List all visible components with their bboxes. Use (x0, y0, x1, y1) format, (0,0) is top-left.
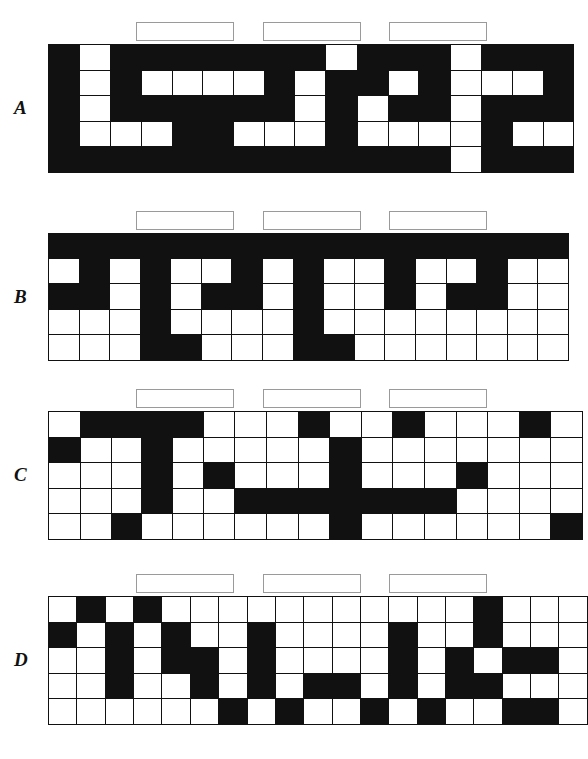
grid-cell-open[interactable] (538, 258, 569, 284)
grid-cell-open[interactable] (488, 463, 520, 489)
grid-cell-open[interactable] (162, 673, 190, 699)
grid-cell-open[interactable] (417, 597, 445, 623)
answer-box-a-3[interactable] (389, 22, 487, 41)
grid-cell-open[interactable] (190, 622, 218, 648)
grid-cell-open[interactable] (326, 45, 358, 71)
grid-cell-open[interactable] (162, 699, 190, 725)
grid-cell-open[interactable] (415, 335, 446, 361)
grid-cell-open[interactable] (190, 699, 218, 725)
grid-cell-open[interactable] (298, 514, 330, 540)
grid-cell-open[interactable] (203, 437, 235, 463)
grid-cell-open[interactable] (304, 699, 332, 725)
grid-cell-open[interactable] (456, 514, 488, 540)
grid-cell-open[interactable] (247, 699, 275, 725)
grid-cell-open[interactable] (203, 488, 235, 514)
grid-cell-open[interactable] (417, 622, 445, 648)
grid-cell-open[interactable] (519, 514, 551, 540)
grid-cell-open[interactable] (134, 673, 162, 699)
grid-cell-open[interactable] (360, 673, 388, 699)
grid-cell-open[interactable] (477, 335, 508, 361)
grid-cell-open[interactable] (162, 597, 190, 623)
grid-cell-open[interactable] (357, 121, 388, 147)
grid-cell-open[interactable] (531, 673, 559, 699)
grid-cell-open[interactable] (354, 335, 385, 361)
grid-cell-open[interactable] (172, 437, 203, 463)
grid-cell-open[interactable] (551, 463, 583, 489)
grid-cell-open[interactable] (201, 309, 232, 335)
grid-cell-open[interactable] (393, 437, 425, 463)
grid-cell-open[interactable] (424, 463, 456, 489)
grid-cell-open[interactable] (49, 514, 81, 540)
puzzle-grid-c[interactable] (48, 411, 583, 540)
grid-cell-open[interactable] (538, 284, 569, 310)
puzzle-grid-a[interactable] (48, 44, 574, 173)
grid-cell-open[interactable] (456, 488, 488, 514)
answer-box-c-2[interactable] (263, 389, 361, 408)
grid-cell-open[interactable] (263, 309, 294, 335)
grid-cell-open[interactable] (201, 258, 232, 284)
grid-cell-open[interactable] (79, 335, 110, 361)
grid-cell-open[interactable] (332, 699, 360, 725)
grid-cell-open[interactable] (295, 70, 326, 96)
grid-cell-open[interactable] (235, 412, 267, 438)
grid-cell-open[interactable] (267, 437, 299, 463)
grid-cell-open[interactable] (502, 622, 530, 648)
grid-cell-open[interactable] (134, 622, 162, 648)
grid-cell-open[interactable] (446, 597, 474, 623)
grid-cell-open[interactable] (201, 335, 232, 361)
grid-cell-open[interactable] (354, 258, 385, 284)
grid-cell-open[interactable] (80, 488, 111, 514)
grid-cell-open[interactable] (219, 597, 247, 623)
answer-box-b-1[interactable] (136, 211, 234, 230)
grid-cell-open[interactable] (232, 309, 263, 335)
grid-cell-open[interactable] (456, 412, 488, 438)
grid-cell-open[interactable] (203, 70, 234, 96)
grid-cell-open[interactable] (385, 335, 416, 361)
grid-cell-open[interactable] (219, 622, 247, 648)
grid-cell-open[interactable] (415, 284, 446, 310)
grid-cell-open[interactable] (361, 514, 393, 540)
grid-cell-open[interactable] (233, 70, 264, 96)
grid-cell-open[interactable] (111, 463, 142, 489)
grid-cell-open[interactable] (77, 673, 105, 699)
grid-cell-open[interactable] (172, 70, 203, 96)
grid-cell-open[interactable] (507, 258, 538, 284)
grid-cell-open[interactable] (172, 463, 203, 489)
grid-cell-open[interactable] (417, 648, 445, 674)
grid-cell-open[interactable] (105, 699, 133, 725)
grid-cell-open[interactable] (267, 412, 299, 438)
grid-cell-open[interactable] (360, 648, 388, 674)
grid-cell-open[interactable] (488, 437, 520, 463)
grid-cell-open[interactable] (324, 284, 355, 310)
grid-cell-open[interactable] (267, 514, 299, 540)
grid-cell-open[interactable] (446, 335, 477, 361)
grid-cell-open[interactable] (172, 488, 203, 514)
grid-cell-open[interactable] (551, 412, 583, 438)
grid-cell-open[interactable] (361, 463, 393, 489)
grid-cell-open[interactable] (559, 622, 587, 648)
grid-cell-open[interactable] (77, 622, 105, 648)
grid-cell-open[interactable] (49, 335, 80, 361)
grid-cell-open[interactable] (519, 488, 551, 514)
grid-cell-open[interactable] (49, 258, 80, 284)
grid-cell-open[interactable] (538, 309, 569, 335)
grid-cell-open[interactable] (330, 412, 362, 438)
grid-cell-open[interactable] (49, 463, 81, 489)
grid-cell-open[interactable] (559, 699, 587, 725)
grid-cell-open[interactable] (502, 597, 530, 623)
grid-cell-open[interactable] (203, 412, 235, 438)
grid-cell-open[interactable] (235, 463, 267, 489)
grid-cell-open[interactable] (543, 121, 574, 147)
answer-box-c-3[interactable] (389, 389, 487, 408)
grid-cell-open[interactable] (450, 96, 482, 122)
grid-cell-open[interactable] (474, 648, 502, 674)
grid-cell-open[interactable] (49, 648, 77, 674)
grid-cell-open[interactable] (275, 673, 303, 699)
grid-cell-open[interactable] (49, 412, 81, 438)
answer-box-a-2[interactable] (263, 22, 361, 41)
answer-box-c-1[interactable] (136, 389, 234, 408)
grid-cell-open[interactable] (219, 673, 247, 699)
grid-cell-open[interactable] (360, 622, 388, 648)
grid-cell-open[interactable] (388, 121, 419, 147)
grid-cell-open[interactable] (450, 70, 482, 96)
